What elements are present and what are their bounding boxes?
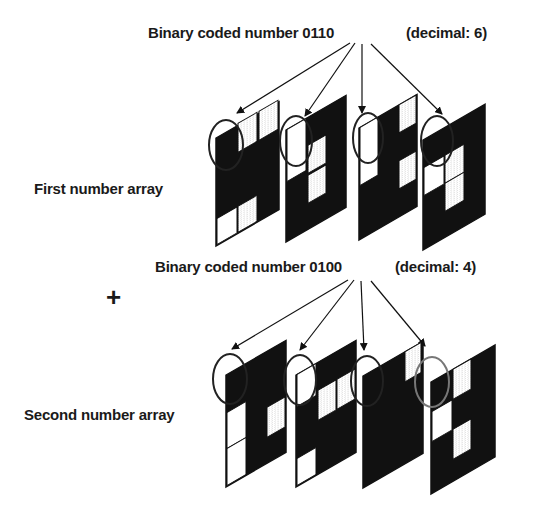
second-arrows (232, 280, 425, 350)
arrow-bit-4 (371, 281, 425, 346)
second-panel-2 (296, 340, 356, 487)
arrow-bit-1 (232, 280, 348, 349)
number-array-diagram (0, 0, 548, 510)
first-panel-2 (286, 95, 346, 242)
arrow-bit-2 (300, 280, 354, 350)
second-panel-3 (363, 341, 423, 488)
second-panel-1 (226, 340, 286, 487)
first-panel-1 (216, 100, 279, 246)
first-panel-4 (423, 104, 485, 250)
arrow-bit-3 (361, 281, 364, 350)
first-panel-3 (359, 95, 417, 240)
second-panel-4 (431, 345, 495, 494)
